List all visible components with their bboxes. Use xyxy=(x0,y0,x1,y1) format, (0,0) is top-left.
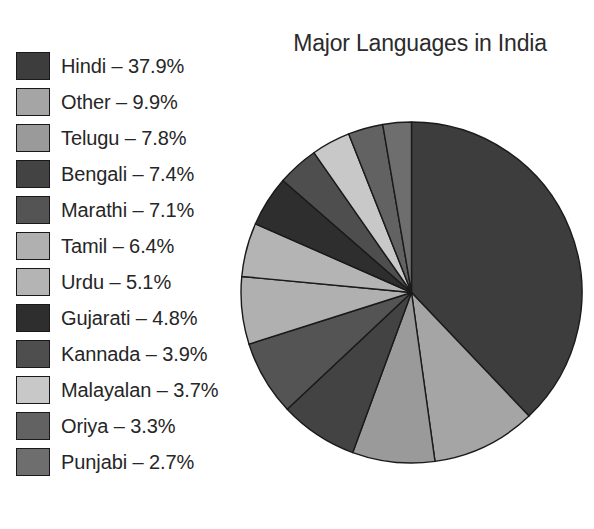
chart-legend: Hindi – 37.9%Other – 9.9%Telugu – 7.8%Be… xyxy=(16,48,238,480)
legend-item-oriya[interactable]: Oriya – 3.3% xyxy=(16,408,238,444)
legend-item-label: Malayalan – 3.7% xyxy=(61,380,218,400)
legend-swatch-icon xyxy=(16,448,50,476)
legend-swatch-icon xyxy=(16,268,50,296)
pie-chart-svg: Hindi – 37.9%Other – 9.9%Telugu – 7.8%Be… xyxy=(240,121,583,464)
legend-item-other[interactable]: Other – 9.9% xyxy=(16,84,238,120)
legend-swatch-icon xyxy=(16,376,50,404)
legend-item-label: Telugu – 7.8% xyxy=(61,128,186,148)
legend-item-label: Bengali – 7.4% xyxy=(61,164,194,184)
legend-swatch-icon xyxy=(16,52,50,80)
legend-item-label: Punjabi – 2.7% xyxy=(61,452,194,472)
legend-item-marathi[interactable]: Marathi – 7.1% xyxy=(16,192,238,228)
legend-item-punjabi[interactable]: Punjabi – 2.7% xyxy=(16,444,238,480)
legend-swatch-icon xyxy=(16,124,50,152)
legend-item-label: Other – 9.9% xyxy=(61,92,178,112)
pie-chart-figure: Major Languages in India Hindi – 37.9%Ot… xyxy=(0,0,594,529)
pie-slice-group: Hindi – 37.9%Other – 9.9%Telugu – 7.8%Be… xyxy=(241,122,582,463)
legend-item-telugu[interactable]: Telugu – 7.8% xyxy=(16,120,238,156)
legend-swatch-icon xyxy=(16,160,50,188)
legend-swatch-icon xyxy=(16,340,50,368)
legend-item-label: Hindi – 37.9% xyxy=(61,56,184,76)
legend-item-label: Urdu – 5.1% xyxy=(61,272,171,292)
legend-swatch-icon xyxy=(16,304,50,332)
legend-item-label: Marathi – 7.1% xyxy=(61,200,194,220)
legend-swatch-icon xyxy=(16,88,50,116)
legend-item-label: Kannada – 3.9% xyxy=(61,344,208,364)
legend-item-tamil[interactable]: Tamil – 6.4% xyxy=(16,228,238,264)
legend-item-urdu[interactable]: Urdu – 5.1% xyxy=(16,264,238,300)
legend-item-malayalan[interactable]: Malayalan – 3.7% xyxy=(16,372,238,408)
legend-item-label: Tamil – 6.4% xyxy=(61,236,174,256)
legend-swatch-icon xyxy=(16,232,50,260)
legend-item-gujarati[interactable]: Gujarati – 4.8% xyxy=(16,300,238,336)
legend-swatch-icon xyxy=(16,412,50,440)
legend-item-bengali[interactable]: Bengali – 7.4% xyxy=(16,156,238,192)
legend-item-hindi[interactable]: Hindi – 37.9% xyxy=(16,48,238,84)
legend-item-label: Oriya – 3.3% xyxy=(61,416,175,436)
page-title: Major Languages in India xyxy=(250,30,590,58)
pie-chart: Hindi – 37.9%Other – 9.9%Telugu – 7.8%Be… xyxy=(240,121,583,464)
legend-item-label: Gujarati – 4.8% xyxy=(61,308,197,328)
legend-item-kannada[interactable]: Kannada – 3.9% xyxy=(16,336,238,372)
legend-swatch-icon xyxy=(16,196,50,224)
